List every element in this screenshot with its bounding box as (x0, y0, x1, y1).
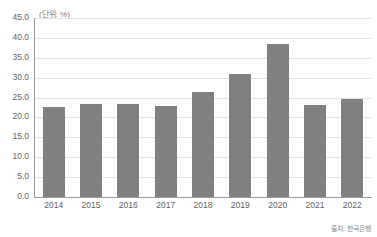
y-axis-tick-label: 5.0 (0, 172, 29, 181)
bar-slot (259, 18, 296, 197)
bar[interactable] (117, 104, 139, 197)
bars-layer (35, 18, 371, 197)
y-axis-tick-label: 15.0 (0, 132, 29, 141)
y-axis-tick-label: 35.0 (0, 53, 29, 62)
bar[interactable] (341, 99, 363, 197)
bar[interactable] (192, 92, 214, 197)
bar-slot (35, 18, 72, 197)
bar[interactable] (267, 44, 289, 197)
y-axis-tick-label: 10.0 (0, 152, 29, 161)
bar[interactable] (155, 106, 177, 197)
x-axis-tick-label: 2017 (156, 200, 175, 211)
bar-slot (110, 18, 147, 197)
y-axis-tick-label: 40.0 (0, 33, 29, 42)
source-note: 출처: 한국은행 (331, 224, 371, 233)
bar-slot (296, 18, 333, 197)
gridline (35, 197, 372, 198)
bar[interactable] (229, 74, 251, 197)
bar-slot (72, 18, 109, 197)
y-axis-tick-label: 30.0 (0, 73, 29, 82)
x-axis-tick-label: 2018 (194, 200, 213, 211)
bar[interactable] (43, 107, 65, 197)
x-axis-tick-label: 2015 (82, 200, 101, 211)
y-axis-tick-label: 25.0 (0, 93, 29, 102)
bar-slot (334, 18, 371, 197)
y-axis-tick-label: 20.0 (0, 112, 29, 121)
x-axis-tick-label: 2021 (306, 200, 325, 211)
x-axis-tick-label: 2020 (268, 200, 287, 211)
bar[interactable] (304, 105, 326, 197)
y-axis-tick-label: 0.0 (0, 192, 29, 201)
bar-slot (184, 18, 221, 197)
x-axis-tick-label: 2022 (343, 200, 362, 211)
x-axis-tick-label: 2014 (44, 200, 63, 211)
x-axis-tick-labels: 201420152016201720182019202020212022 (35, 200, 371, 216)
bar-chart-figure: (단위: %) 45.040.035.030.025.020.015.010.0… (0, 0, 377, 237)
y-axis-tick-label: 45.0 (0, 13, 29, 22)
bar-slot (147, 18, 184, 197)
bar-slot (222, 18, 259, 197)
bar[interactable] (80, 104, 102, 197)
x-axis-tick-label: 2016 (119, 200, 138, 211)
x-axis-tick-label: 2019 (231, 200, 250, 211)
